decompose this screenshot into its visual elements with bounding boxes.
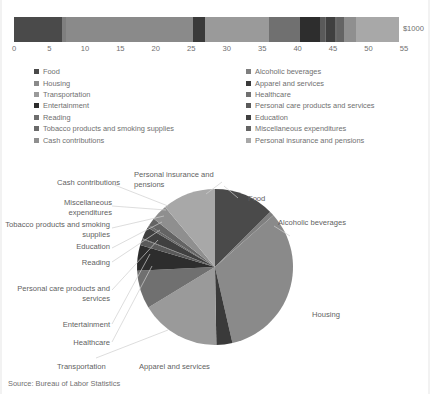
legend-swatch-icon [34,126,39,131]
legend-item: Transportation [34,89,174,100]
legend-column-right: Alcoholic beveragesApparel and servicesH… [246,66,375,146]
stacked-bar-track [14,17,404,42]
axis-tick-label: 45 [329,44,337,53]
legend-swatch-icon [34,81,39,86]
legend-item: Alcoholic beverages [246,66,375,77]
pie-label-apparel-and-services: Apparel and services [139,362,210,372]
axis-tick-label: 5 [47,44,51,53]
chart-legend: FoodHousingTransportationEntertainmentRe… [0,66,430,150]
axis-unit-label: $1000 [403,24,424,33]
legend-swatch-icon [246,81,251,86]
pie-label-food: Food [248,194,265,204]
legend-swatch-icon [34,115,39,120]
axis-tick-label: 15 [116,44,124,53]
pie-label-tobacco: Tobacco products and smoking supplies [2,220,110,239]
bar-segment [14,17,62,42]
legend-item: Personal insurance and pensions [246,134,375,145]
legend-item: Reading [34,112,174,123]
legend-item: Personal care products and services [246,100,375,111]
pie-label-miscellaneous: Miscellaneous expenditures [22,198,112,217]
pie-label-transportation: Transportation [57,362,106,372]
axis-tick-label: 10 [81,44,89,53]
axis-tick-label: 40 [293,44,301,53]
legend-item-label: Personal care products and services [255,101,375,110]
bar-segment [326,17,335,42]
axis-tick-label: 50 [364,44,372,53]
legend-item-label: Education [255,113,288,122]
legend-item-label: Reading [43,113,71,122]
pie-label-healthcare: Healthcare [40,338,110,348]
legend-item: Entertainment [34,100,174,111]
legend-item-label: Miscellaneous expenditures [255,124,346,133]
legend-column-left: FoodHousingTransportationEntertainmentRe… [34,66,174,146]
bar-segment [193,17,206,42]
bar-segment [66,17,193,42]
pie-chart: Cash contributions Miscellaneous expendi… [0,162,430,374]
bar-segment [300,17,321,42]
legend-swatch-icon [34,103,39,108]
legend-swatch-icon [246,103,251,108]
legend-item-label: Healthcare [255,90,291,99]
page-title: CONSUMER EXPENDITURES IN THE U.S. BY MAJ… [8,0,422,3]
pie-label-entertainment: Entertainment [26,320,110,330]
legend-item-label: Cash contributions [43,136,104,145]
legend-item: Cash contributions [34,134,174,145]
pie-leader-line [112,266,152,342]
legend-swatch-icon [34,138,39,143]
bar-segment [344,17,357,42]
pie-label-personal-care: Personal care products and services [4,284,110,303]
pie-label-reading: Reading [32,258,110,268]
bar-x-axis: 0510152025303540455055 [0,44,430,58]
legend-item-label: Tobacco products and smoking supplies [43,124,174,133]
legend-item-label: Transportation [43,90,90,99]
legend-swatch-icon [246,138,251,143]
legend-swatch-icon [34,92,39,97]
pie-label-personal-insurance: Personal insurance and pensions [134,170,220,189]
legend-item-label: Housing [43,79,70,88]
legend-swatch-icon [246,92,251,97]
chart-page: CONSUMER EXPENDITURES IN THE U.S. BY MAJ… [0,0,430,394]
legend-item: Housing [34,77,174,88]
legend-item: Food [34,66,174,77]
axis-tick-label: 35 [258,44,266,53]
legend-item: Apparel and services [246,77,375,88]
legend-item: Healthcare [246,89,375,100]
pie-label-cash-contributions: Cash contributions [30,178,120,188]
legend-item: Tobacco products and smoking supplies [34,123,174,134]
legend-item-label: Entertainment [43,101,89,110]
legend-item-label: Food [43,67,60,76]
bar-segment [356,17,399,42]
axis-tick-label: 0 [12,44,16,53]
axis-tick-label: 25 [187,44,195,53]
pie-label-housing: Housing [312,310,340,320]
legend-item: Miscellaneous expenditures [246,123,375,134]
axis-tick-label: 55 [400,44,408,53]
legend-item-label: Alcoholic beverages [255,67,321,76]
pie-leader-line [112,206,166,210]
bar-segment [205,17,269,42]
axis-tick-label: 30 [222,44,230,53]
stacked-bar-chart: 0510152025303540455055 $1000 [0,14,430,64]
axis-tick-label: 20 [152,44,160,53]
legend-item-label: Personal insurance and pensions [255,136,364,145]
source-note: Source: Bureau of Labor Statistics [8,379,120,388]
legend-swatch-icon [246,69,251,74]
legend-swatch-icon [246,115,251,120]
legend-item-label: Apparel and services [255,79,324,88]
pie-label-education: Education [32,242,110,252]
legend-item: Education [246,112,375,123]
pie-label-alcoholic-beverages: Alcoholic beverages [278,218,346,228]
bar-segment [269,17,299,42]
legend-swatch-icon [246,126,251,131]
legend-swatch-icon [34,69,39,74]
